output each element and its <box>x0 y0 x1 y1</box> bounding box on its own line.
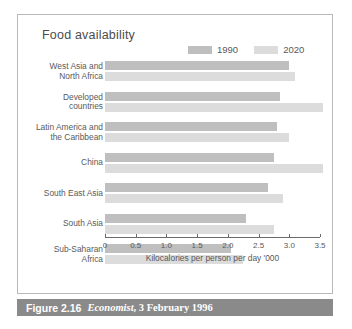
axis-tick-label: 3.5 <box>314 241 325 250</box>
axis-tick <box>259 234 260 237</box>
chart-panel: Food availability 1990 2020 West Asia an… <box>17 14 333 294</box>
category-label: China <box>18 158 103 168</box>
axis-tick-label: 3.0 <box>284 241 295 250</box>
category-label-line: South Asia <box>18 219 103 229</box>
figure-caption-bar: Figure 2.16 Economist , 3 February 1996 <box>17 299 333 316</box>
bar-group <box>105 61 295 81</box>
bar-group <box>105 183 283 203</box>
category-label-line: the Caribbean <box>18 133 103 143</box>
category-label-line: South East Asia <box>18 189 103 199</box>
bar-group <box>105 122 289 142</box>
axis-tick <box>289 234 290 237</box>
bar-2020 <box>105 133 289 142</box>
bar-1990 <box>105 183 268 192</box>
legend-label-2020: 2020 <box>283 44 304 55</box>
bar-group <box>105 153 323 173</box>
figure-container: Food availability 1990 2020 West Asia an… <box>0 0 352 329</box>
axis-line <box>105 237 320 238</box>
axis-tick-label: 1.5 <box>192 241 203 250</box>
caption-source-name: Economist <box>87 302 133 313</box>
bar-1990 <box>105 214 246 223</box>
bar-2020 <box>105 194 283 203</box>
bar-1990 <box>105 122 277 131</box>
axis-tick <box>320 234 321 237</box>
category-label: South Asia <box>18 219 103 229</box>
category-label: Latin America andthe Caribbean <box>18 123 103 142</box>
chart-legend: 1990 2020 <box>188 44 304 55</box>
axis-tick-label: 2.5 <box>253 241 264 250</box>
bar-1990 <box>105 153 274 162</box>
legend-swatch-2020-icon <box>254 46 278 54</box>
axis-tick-label: 0.5 <box>130 241 141 250</box>
bar-1990 <box>105 92 280 101</box>
caption-figure-number: Figure 2.16 <box>26 302 81 314</box>
x-axis: Kilocalories per person per day '000 00.… <box>18 237 334 277</box>
category-label-line: China <box>18 158 103 168</box>
axis-tick-label: 2.0 <box>222 241 233 250</box>
axis-title: Kilocalories per person per day '000 <box>105 253 320 263</box>
category-label-line: countries <box>18 102 103 112</box>
axis-tick <box>136 234 137 237</box>
bar-group <box>105 92 323 112</box>
bar-2020 <box>105 225 274 234</box>
legend-label-1990: 1990 <box>217 44 238 55</box>
axis-tick <box>228 234 229 237</box>
category-label: West Asia andNorth Africa <box>18 62 103 81</box>
legend-swatch-1990-icon <box>188 46 212 54</box>
axis-tick-label: 1.0 <box>161 241 172 250</box>
axis-tick <box>105 234 106 237</box>
category-label-line: North Africa <box>18 72 103 82</box>
bar-group <box>105 214 274 234</box>
category-label: Developedcountries <box>18 93 103 112</box>
bar-2020 <box>105 72 295 81</box>
bar-2020 <box>105 103 323 112</box>
bar-1990 <box>105 61 289 70</box>
legend-entry-1990: 1990 <box>188 44 238 55</box>
chart-title: Food availability <box>42 28 135 42</box>
axis-tick <box>197 234 198 237</box>
category-label: South East Asia <box>18 189 103 199</box>
legend-entry-2020: 2020 <box>254 44 304 55</box>
caption-source-date: , 3 February 1996 <box>134 302 213 313</box>
bar-2020 <box>105 164 323 173</box>
axis-tick <box>166 234 167 237</box>
axis-tick-label: 0 <box>103 241 107 250</box>
